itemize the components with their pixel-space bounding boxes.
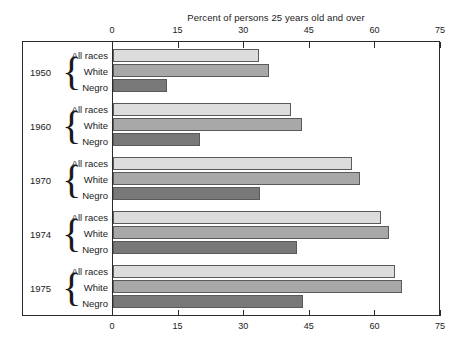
bars-group-1970 (113, 156, 441, 204)
bar-1950-white (113, 64, 269, 77)
x-tick-label-45-top: 45 (304, 25, 314, 35)
category-label-white: White (84, 172, 108, 188)
group-year-label: 1970 (30, 175, 51, 186)
bar-1975-negro (113, 295, 303, 308)
group-year-label: 1974 (30, 229, 51, 240)
bar-1975-white (113, 280, 402, 293)
bar-1974-all-races (113, 211, 381, 224)
bar-1975-all-races (113, 265, 395, 278)
category-labels: All racesWhiteNegro (72, 102, 108, 150)
category-label-negro: Negro (82, 80, 108, 96)
group-1960: 1960{All racesWhiteNegro (22, 102, 112, 150)
category-label-white: White (84, 64, 108, 80)
category-label-white: White (84, 118, 108, 134)
x-tick-label-60-top: 60 (369, 25, 379, 35)
category-labels: All racesWhiteNegro (72, 48, 108, 96)
group-1975: 1975{All racesWhiteNegro (22, 264, 112, 312)
bar-1970-all-races (113, 157, 352, 170)
chart-root: Percent of persons 25 years old and over… (0, 0, 466, 344)
x-tick-label-30-bottom: 30 (238, 321, 248, 331)
bar-1950-negro (113, 79, 167, 92)
x-tick-label-45-bottom: 45 (304, 321, 314, 331)
category-label-negro: Negro (82, 242, 108, 258)
group-1950: 1950{All racesWhiteNegro (22, 48, 112, 96)
group-1970: 1970{All racesWhiteNegro (22, 156, 112, 204)
x-tick-label-0-top: 0 (109, 25, 114, 35)
category-label-negro: Negro (82, 188, 108, 204)
bars-group-1950 (113, 48, 441, 96)
bar-1974-white (113, 226, 389, 239)
category-labels: All racesWhiteNegro (72, 156, 108, 204)
bars-group-1960 (113, 102, 441, 150)
bar-1960-all-races (113, 103, 291, 116)
x-tick-label-60-bottom: 60 (369, 321, 379, 331)
category-label-white: White (84, 226, 108, 242)
x-tick-label-75-top: 75 (435, 25, 445, 35)
bar-1970-negro (113, 187, 260, 200)
bars-group-1975 (113, 264, 441, 312)
category-label-all-races: All races (72, 156, 108, 172)
category-label-all-races: All races (72, 264, 108, 280)
bars-group-1974 (113, 210, 441, 258)
category-labels: All racesWhiteNegro (72, 210, 108, 258)
group-1974: 1974{All racesWhiteNegro (22, 210, 112, 258)
bar-1974-negro (113, 241, 297, 254)
category-labels: All racesWhiteNegro (72, 264, 108, 312)
group-year-label: 1975 (30, 283, 51, 294)
category-label-negro: Negro (82, 296, 108, 312)
x-tick-label-15-bottom: 15 (173, 321, 183, 331)
bar-1960-negro (113, 133, 200, 146)
chart-title: Percent of persons 25 years old and over (112, 12, 440, 23)
bar-1960-white (113, 118, 302, 131)
bar-1950-all-races (113, 49, 259, 62)
category-label-negro: Negro (82, 134, 108, 150)
x-tick-label-30-top: 30 (238, 25, 248, 35)
bar-1970-white (113, 172, 360, 185)
category-label-white: White (84, 280, 108, 296)
x-tick-label-0-bottom: 0 (109, 321, 114, 331)
group-year-label: 1960 (30, 121, 51, 132)
category-label-all-races: All races (72, 48, 108, 64)
category-label-all-races: All races (72, 210, 108, 226)
x-tick-label-75-bottom: 75 (435, 321, 445, 331)
group-year-label: 1950 (30, 67, 51, 78)
category-label-all-races: All races (72, 102, 108, 118)
x-tick-label-15-top: 15 (173, 25, 183, 35)
